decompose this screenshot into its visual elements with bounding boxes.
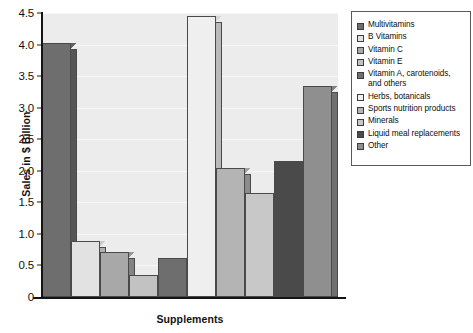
- y-axis-tick-label: 4.5: [0, 7, 34, 19]
- x-axis-line: [33, 297, 346, 299]
- legend-item[interactable]: Minerals: [357, 116, 466, 126]
- bar: [245, 193, 274, 297]
- y-axis-tick-mark: [37, 233, 42, 234]
- bar: [303, 86, 332, 297]
- legend-item-label: Sports nutrition products: [368, 104, 456, 114]
- legend-item[interactable]: Other: [357, 141, 466, 151]
- y-axis-tick-mark: [37, 13, 42, 14]
- y-axis-tick-mark: [37, 44, 42, 45]
- legend-swatch-icon: [357, 35, 364, 42]
- legend-item-label: Herbs, botanicals: [368, 92, 430, 102]
- legend-swatch-icon: [357, 131, 364, 138]
- y-axis-tick-mark: [37, 265, 42, 266]
- y-axis-tick-mark: [37, 170, 42, 171]
- bar-face: [274, 161, 303, 297]
- bar-face: [216, 168, 245, 297]
- bar-top-bevel: [129, 252, 135, 258]
- legend-item[interactable]: Liquid meal replacements: [357, 129, 466, 139]
- bar-face: [245, 193, 274, 297]
- legend-swatch-icon: [357, 72, 364, 79]
- legend-item[interactable]: Sports nutrition products: [357, 104, 466, 114]
- legend-swatch-icon: [357, 94, 364, 101]
- legend-item[interactable]: B Vitamins: [357, 32, 466, 42]
- bar: [158, 258, 187, 297]
- bar-face: [158, 258, 187, 297]
- legend-item-label: Multivitamins: [368, 20, 415, 30]
- plot-area: [42, 13, 338, 297]
- x-axis-title: Supplements: [42, 313, 338, 325]
- legend-item-label: B Vitamins: [368, 32, 406, 42]
- bar: [42, 43, 71, 297]
- bar-top-bevel: [216, 16, 222, 22]
- legend-swatch-icon: [357, 119, 364, 126]
- bar-face: [129, 275, 158, 297]
- y-axis-tick-label: 1.5: [0, 196, 34, 208]
- top-cutoff-artifact: [128, 0, 248, 7]
- legend-swatch-icon: [357, 47, 364, 54]
- y-axis-tick-label: 2.0: [0, 165, 34, 177]
- y-axis-tick-mark: [37, 76, 42, 77]
- bar-series: [42, 13, 338, 297]
- legend-item[interactable]: Vitamin A, carotenoids, and others: [357, 69, 466, 90]
- bar-side: [332, 92, 338, 297]
- bar: [129, 275, 158, 297]
- y-axis-tick-mark: [37, 202, 42, 203]
- legend-swatch-icon: [357, 59, 364, 66]
- legend-item-label: Vitamin C: [368, 45, 403, 55]
- legend-item-label: Vitamin A, carotenoids, and others: [368, 69, 466, 90]
- y-axis-tick-labels: 00.51.01.52.02.53.03.54.04.5: [0, 0, 34, 333]
- legend-swatch-icon: [357, 143, 364, 150]
- bar-chart-figure: Sales in $ Billion 00.51.01.52.02.53.03.…: [0, 0, 473, 333]
- bar-face: [187, 16, 216, 297]
- chart-legend: MultivitaminsB VitaminsVitamin CVitamin …: [351, 11, 471, 166]
- legend-item-label: Vitamin E: [368, 57, 402, 67]
- bar-top-bevel: [100, 241, 106, 247]
- bar: [100, 252, 129, 297]
- legend-item-label: Other: [368, 141, 388, 151]
- y-axis-tick-mark: [37, 139, 42, 140]
- y-axis-tick-label: 4.0: [0, 39, 34, 51]
- y-axis-tick-label: 3.5: [0, 70, 34, 82]
- bar-top-bevel: [71, 43, 77, 49]
- bar-face: [100, 252, 129, 297]
- y-axis-tick-label: 0: [0, 291, 34, 303]
- y-axis-tick-label: 1.0: [0, 228, 34, 240]
- bar-face: [303, 86, 332, 297]
- y-axis-line: [41, 12, 43, 298]
- bar: [71, 241, 100, 297]
- legend-item-label: Minerals: [368, 116, 399, 126]
- bar-face: [42, 43, 71, 297]
- legend-item[interactable]: Herbs, botanicals: [357, 92, 466, 102]
- bar: [187, 16, 216, 297]
- bar-face: [71, 241, 100, 297]
- legend-swatch-icon: [357, 23, 364, 30]
- bar-top-bevel: [245, 168, 251, 174]
- legend-item[interactable]: Multivitamins: [357, 20, 466, 30]
- y-axis-tick-label: 0.5: [0, 259, 34, 271]
- legend-item[interactable]: Vitamin C: [357, 45, 466, 55]
- bar-top-bevel: [332, 86, 338, 92]
- bar: [274, 161, 303, 297]
- legend-item[interactable]: Vitamin E: [357, 57, 466, 67]
- legend-swatch-icon: [357, 107, 364, 114]
- y-axis-tick-label: 2.5: [0, 133, 34, 145]
- bar: [216, 168, 245, 297]
- y-axis-tick-label: 3.0: [0, 102, 34, 114]
- legend-item-label: Liquid meal replacements: [368, 129, 460, 139]
- y-axis-tick-mark: [37, 107, 42, 108]
